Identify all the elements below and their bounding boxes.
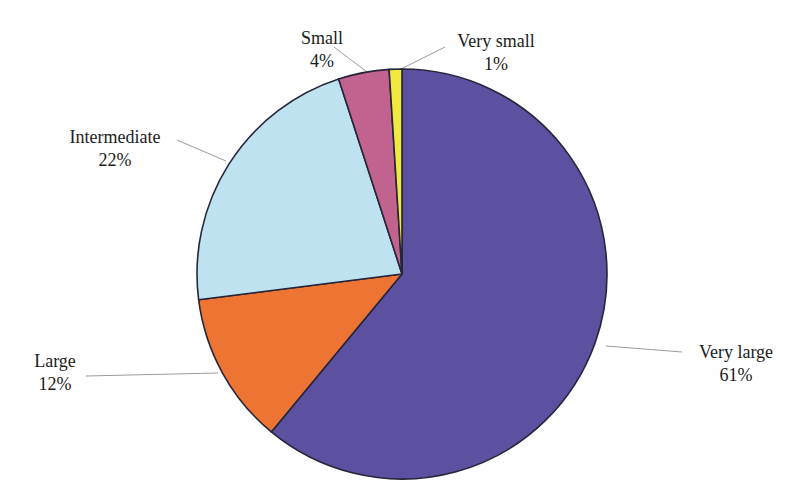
slice-name: Very small (441, 30, 551, 53)
slice-label-very-large: Very large 61% (683, 341, 789, 387)
slice-name: Large (10, 350, 100, 373)
slice-percent: 4% (277, 50, 367, 73)
slice-label-intermediate: Intermediate 22% (45, 126, 185, 172)
slice-percent: 1% (441, 53, 551, 76)
slice-percent: 22% (45, 149, 185, 172)
slice-label-very-small: Very small 1% (441, 30, 551, 76)
slice-name: Intermediate (45, 126, 185, 149)
leader-line-very-small (399, 47, 445, 70)
pie-slices (197, 69, 607, 479)
pie-chart-figure: Small 4% Very small 1% Intermediate 22% … (0, 0, 807, 503)
leader-line-large (86, 373, 218, 376)
slice-percent: 61% (683, 364, 789, 387)
leader-line-very-large (606, 346, 682, 352)
slice-name: Very large (683, 341, 789, 364)
slice-percent: 12% (10, 373, 100, 396)
pie-chart (0, 0, 807, 503)
slice-label-large: Large 12% (10, 350, 100, 396)
slice-name: Small (277, 27, 367, 50)
slice-label-small: Small 4% (277, 27, 367, 73)
